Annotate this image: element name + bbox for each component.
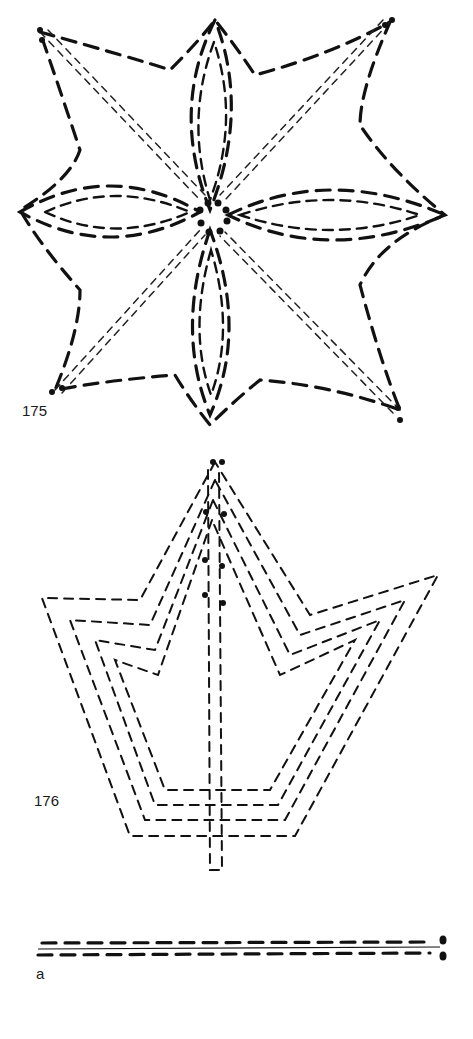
figure-175-star — [20, 17, 445, 425]
figure-label-175: 175 — [22, 402, 47, 419]
center-dots — [197, 200, 231, 236]
pattern-canvas — [0, 0, 473, 1039]
figure-176-leaf — [42, 459, 438, 870]
figure-label-176: 176 — [34, 792, 59, 809]
figure-a-lines — [38, 936, 447, 961]
figure-label-a: a — [36, 965, 44, 982]
